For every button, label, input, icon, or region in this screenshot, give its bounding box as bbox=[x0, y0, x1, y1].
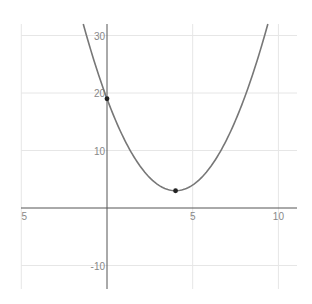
key-points bbox=[105, 96, 178, 193]
x-tick-label: 10 bbox=[273, 211, 285, 222]
function-graph: 5510-10102030 bbox=[0, 0, 312, 304]
y-tick-label: -10 bbox=[91, 261, 106, 272]
vertex-point bbox=[173, 188, 178, 193]
parabola-curve bbox=[83, 24, 268, 191]
y-intercept-point bbox=[105, 96, 110, 101]
x-tick-label: 5 bbox=[190, 211, 196, 222]
y-tick-label: 30 bbox=[94, 31, 106, 42]
y-tick-label: 10 bbox=[94, 146, 106, 157]
x-tick-label: 5 bbox=[22, 211, 28, 222]
